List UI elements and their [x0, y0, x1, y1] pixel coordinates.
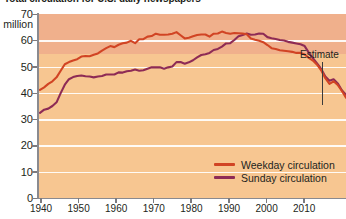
x-tick-label-1960: 1960 — [105, 203, 127, 214]
y-tick-70 — [32, 14, 37, 16]
y-axis-unit: million — [3, 18, 33, 30]
legend-item-sunday: Sunday circulation — [214, 171, 335, 184]
y-axis-line — [37, 13, 39, 199]
y-tick-50 — [32, 66, 37, 68]
line-weekday-circulation — [40, 32, 346, 98]
x-tick-label-1990: 1990 — [218, 203, 240, 214]
estimate-leader-line — [322, 62, 323, 105]
legend-label-weekday: Weekday circulation — [241, 159, 335, 171]
legend-swatch-weekday — [214, 163, 235, 166]
x-tick-label-2010: 2010 — [293, 203, 315, 214]
y-tick-40 — [32, 93, 37, 95]
estimate-annotation-label: Estimate — [300, 49, 339, 60]
x-tick-label-1950: 1950 — [67, 203, 89, 214]
y-tick-20 — [32, 145, 37, 147]
y-tick-0 — [32, 198, 37, 200]
legend-label-sunday: Sunday circulation — [241, 172, 327, 184]
legend-item-weekday: Weekday circulation — [214, 158, 335, 171]
x-tick-label-2000: 2000 — [255, 203, 277, 214]
line-sunday-circulation — [40, 33, 346, 112]
x-tick-label-1940: 1940 — [30, 203, 52, 214]
y-tick-10 — [32, 171, 37, 173]
x-tick-label-1980: 1980 — [180, 203, 202, 214]
chart-title: Total circulation for U.S. daily newspap… — [4, 0, 201, 4]
y-axis-labels: 70 million 60 50 40 30 20 10 0 — [0, 0, 33, 219]
y-tick-60 — [32, 40, 37, 42]
chart-legend: Weekday circulation Sunday circulation — [214, 158, 335, 184]
y-tick-30 — [32, 119, 37, 121]
legend-swatch-sunday — [214, 176, 235, 179]
chart-container: Total circulation for U.S. daily newspap… — [0, 0, 346, 219]
x-tick-label-1970: 1970 — [143, 203, 165, 214]
